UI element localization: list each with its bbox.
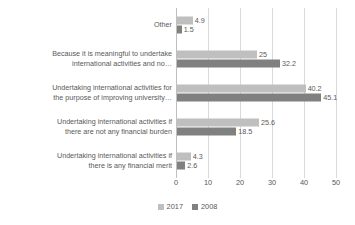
x-tick-50: 50 <box>332 178 340 187</box>
category-row: Other 4.9 1.5 <box>176 8 336 42</box>
x-tick-40: 40 <box>300 178 308 187</box>
category-row: Undertaking international activities if … <box>176 110 336 144</box>
category-label: Other <box>0 20 172 30</box>
category-row: Undertaking international activities for… <box>176 76 336 110</box>
bar-group: 25.6 18.5 <box>177 119 337 136</box>
bar-wrapper: 25 <box>177 51 337 59</box>
x-axis: 0 10 20 30 40 50 <box>176 178 336 192</box>
legend-swatch-icon <box>192 204 198 210</box>
bar-2008[interactable] <box>177 60 280 68</box>
bar-2008[interactable] <box>177 128 236 136</box>
bar-2017[interactable] <box>177 51 257 59</box>
bar-group: 4.9 1.5 <box>177 17 337 34</box>
bar-group: 4.3 2.6 <box>177 153 337 170</box>
legend-swatch-icon <box>158 204 164 210</box>
bar-group: 25 32.2 <box>177 51 337 68</box>
bar-wrapper: 4.3 <box>177 153 337 161</box>
bar-value-2008: 1.5 <box>182 26 194 34</box>
bar-value-2008: 32.2 <box>280 60 296 68</box>
category-row: Undertaking international activities if … <box>176 144 336 178</box>
bar-value-2008: 45.1 <box>321 94 337 102</box>
bar-value-2017: 25.6 <box>259 119 275 127</box>
bar-wrapper: 40.2 <box>177 85 337 93</box>
x-tick-30: 30 <box>268 178 276 187</box>
bar-2017[interactable] <box>177 85 306 93</box>
x-tick-20: 20 <box>236 178 244 187</box>
bar-2017[interactable] <box>177 17 193 25</box>
bar-value-2017: 40.2 <box>306 85 322 93</box>
category-label: Undertaking international activities for… <box>0 83 172 102</box>
bar-wrapper: 2.6 <box>177 162 337 170</box>
legend-label-2017: 2017 <box>167 203 183 211</box>
legend-label-2008: 2008 <box>201 203 217 211</box>
bar-value-2017: 4.9 <box>193 17 205 25</box>
bar-group: 40.2 45.1 <box>177 85 337 102</box>
legend: 2017 2008 <box>0 203 355 211</box>
category-label: Undertaking international activities if … <box>0 151 172 170</box>
category-label: Undertaking international activities if … <box>0 117 172 136</box>
bar-value-2017: 4.3 <box>191 153 203 161</box>
plot-area: Other 4.9 1.5 Because it is meaningful t… <box>176 8 336 178</box>
bar-wrapper: 18.5 <box>177 128 337 136</box>
bar-wrapper: 32.2 <box>177 60 337 68</box>
bar-wrapper: 4.9 <box>177 17 337 25</box>
category-row: Because it is meaningful to undertake in… <box>176 42 336 76</box>
bar-wrapper: 1.5 <box>177 26 337 34</box>
bar-wrapper: 45.1 <box>177 94 337 102</box>
bar-2008[interactable] <box>177 94 321 102</box>
legend-item-2008[interactable]: 2008 <box>192 203 217 211</box>
bar-wrapper: 25.6 <box>177 119 337 127</box>
legend-item-2017[interactable]: 2017 <box>158 203 183 211</box>
bar-value-2008: 18.5 <box>236 128 252 136</box>
bar-2017[interactable] <box>177 153 191 161</box>
x-tick-0: 0 <box>174 178 178 187</box>
bar-2008[interactable] <box>177 162 185 170</box>
bar-value-2017: 25 <box>257 51 267 59</box>
bar-value-2008: 2.6 <box>185 162 197 170</box>
bar-chart: Other 4.9 1.5 Because it is meaningful t… <box>0 0 355 225</box>
bar-2017[interactable] <box>177 119 259 127</box>
category-label: Because it is meaningful to undertake in… <box>0 49 172 68</box>
x-tick-10: 10 <box>204 178 212 187</box>
